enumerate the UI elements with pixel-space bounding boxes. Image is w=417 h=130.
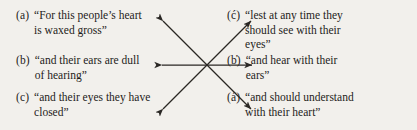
item-label-b-prime: (b̓) [227,53,241,68]
text-line: should see with their [245,23,343,38]
chiasm-figure: (a) “For this people’s heart is waxed gr… [0,0,417,130]
list-item-b-prime: (b̓) “and hear with their ears” [227,53,337,82]
text-line: “and their eyes they have [34,90,150,105]
item-label-c-prime: (ć) [227,8,240,23]
text-line: “For this people’s heart [34,8,142,23]
list-item-a: (a) “For this people’s heart is waxed gr… [16,8,142,37]
text-line: eyes” [245,37,343,52]
text-line: closed” [34,105,150,120]
left-column: (a) “For this people’s heart is waxed gr… [0,0,200,130]
item-label-a-prime: (á) [227,90,240,105]
text-line: is waxed gross” [34,23,142,38]
item-text-c: “and their eyes they have closed” [34,90,150,119]
text-line: “and their ears are dull [35,53,140,68]
right-column: (ć) “lest at any time they should see wi… [218,0,417,130]
list-item-c-prime: (ć) “lest at any time they should see wi… [227,8,343,52]
item-text-b: “and their ears are dull of hearing” [35,53,140,82]
item-text-b-prime: “and hear with their ears” [246,53,338,82]
item-label-a: (a) [16,8,29,23]
item-text-a: “For this people’s heart is waxed gross” [34,8,142,37]
item-text-a-prime: “and should understand with their heart” [245,90,354,119]
list-item-a-prime: (á) “and should understand with their he… [227,90,354,119]
list-item-c: (c) “and their eyes they have closed” [16,90,150,119]
text-line: “and should understand [245,90,354,105]
text-line: “and hear with their [246,53,338,68]
list-item-b: (b) “and their ears are dull of hearing” [16,53,139,82]
item-text-c-prime: “lest at any time they should see with t… [245,8,343,52]
text-line: with their heart” [245,105,354,120]
text-line: of hearing” [35,68,140,83]
item-label-c: (c) [16,90,29,105]
item-label-b: (b) [16,53,30,68]
text-line: ears” [246,68,338,83]
text-line: “lest at any time they [245,8,343,23]
